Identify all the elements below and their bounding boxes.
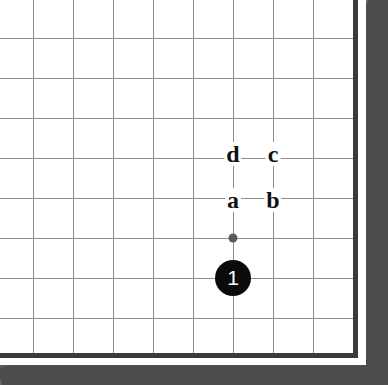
grid-line-vertical-3: [153, 0, 154, 358]
stone-number-label: 1: [227, 267, 239, 289]
grid-line-horizontal-0: [0, 38, 358, 39]
star-point-0: [229, 234, 238, 243]
grid-line-vertical-0: [33, 0, 34, 358]
board-edge-right: [353, 0, 358, 358]
board-edge-bottom: [0, 353, 358, 358]
paper-margin-bottom: [0, 365, 388, 385]
grid-line-horizontal-4: [0, 198, 358, 199]
grid-line-horizontal-2: [0, 118, 358, 119]
grid-line-vertical-2: [113, 0, 114, 358]
grid-line-horizontal-3: [0, 158, 358, 159]
board-surface: [0, 0, 366, 365]
grid-line-vertical-5: [233, 0, 234, 358]
paper-margin-right: [366, 0, 388, 385]
grid-line-horizontal-7: [0, 318, 358, 319]
marker-c: c: [266, 142, 281, 166]
grid-line-horizontal-5: [0, 238, 358, 239]
grid-line-vertical-1: [73, 0, 74, 358]
marker-a: a: [225, 188, 241, 212]
go-board-diagram: dcab 1 Go board corner diagram: [0, 0, 388, 385]
grid-line-horizontal-6: [0, 278, 358, 279]
marker-d: d: [224, 142, 241, 166]
marker-b: b: [264, 188, 281, 212]
grid-line-horizontal-1: [0, 78, 358, 79]
grid-line-vertical-7: [313, 0, 314, 358]
grid-line-vertical-4: [193, 0, 194, 358]
grid-line-vertical-6: [273, 0, 274, 358]
stone-1: 1: [215, 260, 251, 296]
